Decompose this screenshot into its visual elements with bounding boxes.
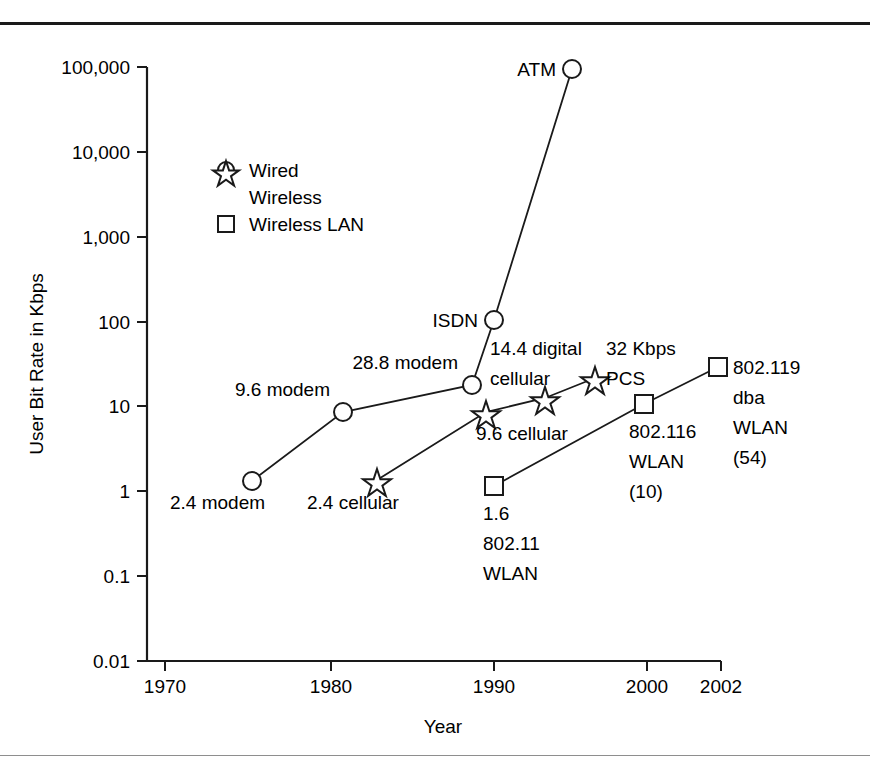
legend-label-wired: Wired (249, 160, 299, 181)
annotation-28.8-modem: 28.8 modem (352, 352, 458, 373)
ytick-label-1: 1 (119, 481, 130, 502)
xtick-labels-group: 1970 1980 1990 2000 2002 (144, 676, 742, 697)
series-wired-line (252, 69, 572, 481)
xtick-label-1990: 1990 (473, 676, 515, 697)
annotation-802.116-wlan-line2: WLAN (629, 451, 684, 472)
x-axis-title: Year (424, 716, 463, 737)
annotation-802.119-dba-wlan: 802.119 dba WLAN (54) (733, 357, 800, 468)
ytick-label-1000: 1,000 (82, 227, 130, 248)
ytick-labels-group: 100,000 10,000 1,000 100 10 1 0.1 0.01 (61, 57, 130, 672)
datapoint-32kbps-pcs[interactable] (581, 367, 609, 394)
annotation-32kbps-pcs-line2: PCS (606, 368, 645, 389)
xtick-label-1970: 1970 (144, 676, 186, 697)
datapoint-802.116-wlan[interactable] (635, 395, 653, 413)
annotation-32kbps-pcs: 32 Kbps PCS (606, 338, 676, 389)
square-marker-icon (218, 216, 234, 232)
annotation-1.6-802.11-wlan-line2: 802.11 (483, 533, 540, 554)
annotation-1.6-802.11-wlan-line3: WLAN (483, 563, 538, 584)
ytick-label-0.1: 0.1 (104, 566, 130, 587)
annotation-isdn: ISDN (433, 310, 478, 331)
y-axis-title: User Bit Rate in Kbps (26, 273, 47, 455)
ytick-label-100: 100 (98, 312, 130, 333)
figure-container: 100,000 10,000 1,000 100 10 1 0.1 0.01 1… (0, 0, 870, 783)
legend-label-wireless-lan: Wireless LAN (249, 214, 364, 235)
chart-legend: Wired Wireless Wireless LAN (213, 160, 364, 235)
annotation-802.116-wlan: 802.116 WLAN (10) (629, 421, 696, 502)
ytick-label-10000: 10,000 (72, 142, 130, 163)
datapoint-atm[interactable] (563, 60, 581, 78)
annotation-14.4-digital-cellular-line1: 14.4 digital (490, 338, 582, 359)
datapoint-isdn[interactable] (485, 311, 503, 329)
ytick-label-0.01: 0.01 (93, 651, 130, 672)
datapoint-14.4-digital-cellular[interactable] (531, 387, 559, 414)
annotation-32kbps-pcs-line1: 32 Kbps (606, 338, 676, 359)
annotation-14.4-digital-cellular: 14.4 digital cellular (490, 338, 582, 389)
datapoint-802.119-dba-wlan[interactable] (709, 358, 727, 376)
datapoint-1.6-802.11-wlan[interactable] (485, 477, 503, 495)
annotation-802.119-dba-wlan-line3: WLAN (733, 417, 788, 438)
xtick-label-2002: 2002 (700, 676, 742, 697)
annotation-14.4-digital-cellular-line2: cellular (490, 368, 551, 389)
annotation-atm: ATM (517, 59, 556, 80)
xtick-label-1980: 1980 (310, 676, 352, 697)
annotation-1.6-802.11-wlan-line1: 1.6 (483, 503, 509, 524)
datapoint-2.4-modem[interactable] (243, 472, 261, 490)
datapoint-9.6-modem[interactable] (334, 403, 352, 421)
annotation-2.4-cellular: 2.4 cellular (307, 492, 400, 513)
datapoint-28.8-modem[interactable] (463, 376, 481, 394)
xtick-label-2000: 2000 (626, 676, 668, 697)
ytick-label-100000: 100,000 (61, 57, 130, 78)
ytick-label-10: 10 (109, 396, 130, 417)
star-marker-icon (213, 161, 239, 186)
annotation-802.119-dba-wlan-line1: 802.119 (733, 357, 800, 378)
annotation-802.116-wlan-line1: 802.116 (629, 421, 696, 442)
annotation-2.4-modem: 2.4 modem (170, 492, 265, 513)
legend-item-wireless-lan: Wireless LAN (218, 214, 364, 235)
annotation-1.6-802.11-wlan: 1.6 802.11 WLAN (483, 503, 540, 584)
annotation-802.116-wlan-line3: (10) (629, 481, 663, 502)
annotation-9.6-modem: 9.6 modem (235, 379, 330, 400)
chart-canvas: 100,000 10,000 1,000 100 10 1 0.1 0.01 1… (0, 0, 870, 783)
annotation-9.6-cellular: 9.6 cellular (476, 423, 569, 444)
legend-label-wireless: Wireless (249, 187, 322, 208)
annotation-802.119-dba-wlan-line4: (54) (733, 447, 767, 468)
annotation-802.119-dba-wlan-line2: dba (733, 387, 765, 408)
